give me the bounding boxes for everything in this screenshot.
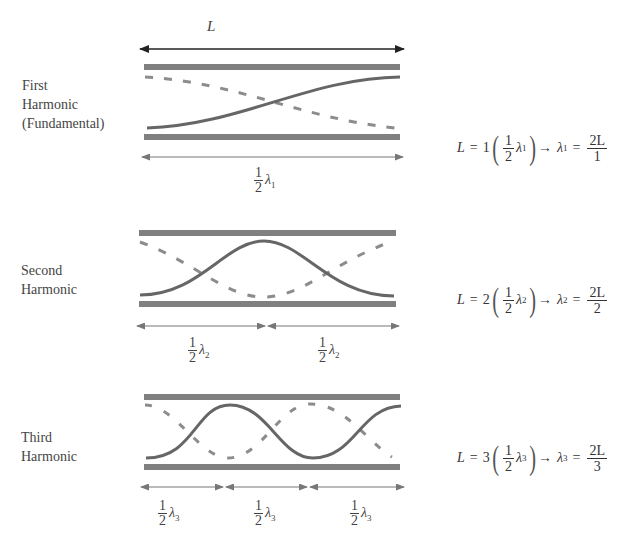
first-harmonic-tube: [142, 64, 403, 157]
label-line: Harmonic: [21, 447, 77, 466]
segment-label: 12 λ3: [350, 499, 372, 528]
segment-label: 12 λ1: [254, 166, 276, 195]
segment-label: 12 λ3: [254, 499, 276, 528]
wave-solid: [147, 77, 400, 128]
second-harmonic-label: Second Harmonic: [21, 261, 77, 299]
segment-label: 12 λ2: [318, 336, 340, 365]
label-line: Third: [21, 428, 77, 447]
label-line: Harmonic: [22, 95, 104, 114]
first-harmonic-label: First Harmonic (Fundamental): [22, 76, 104, 133]
second-harmonic-tube: [137, 230, 399, 326]
third-harmonic-label: Third Harmonic: [21, 428, 77, 466]
label-line: Second: [21, 261, 77, 280]
tube-bottom-wall: [144, 134, 400, 140]
label-line: (Fundamental): [22, 114, 104, 133]
second-harmonic-equation: L=2 ( 12 λ2 ) → λ2 = 2L2: [457, 283, 609, 317]
third-harmonic-tube: [141, 394, 404, 487]
wave-dashed: [145, 404, 392, 458]
tube-top-wall: [144, 394, 400, 400]
tube-top-wall: [144, 64, 400, 70]
label-line: Harmonic: [21, 280, 77, 299]
wave-solid: [140, 241, 394, 296]
tube-bottom-wall: [139, 301, 396, 307]
label-line: First: [22, 76, 104, 95]
segment-label: 12 λ2: [188, 336, 210, 365]
third-harmonic-equation: L=3 ( 12 λ3 ) → λ3 = 2L3: [457, 441, 609, 475]
segment-label: 12 λ3: [158, 499, 180, 528]
first-harmonic-equation: L=1 ( 12 λ1 ) → λ1 = 2L1: [457, 131, 609, 165]
length-label: L: [207, 17, 215, 36]
tube-bottom-wall: [144, 464, 400, 470]
tube-top-wall: [139, 230, 396, 236]
